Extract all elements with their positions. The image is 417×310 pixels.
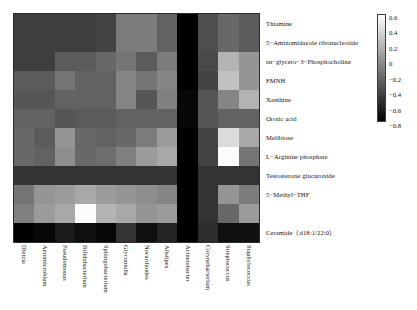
heatmap-cell	[75, 185, 95, 204]
heatmap-cell	[75, 52, 95, 71]
heatmap-cell	[136, 90, 156, 109]
column-label-axis: DietziaAeromicrobiumPseudomonasBifidobac…	[14, 244, 259, 308]
row-label: Xanthine	[266, 90, 374, 109]
heatmap-cell	[157, 223, 177, 242]
heatmap-cell	[14, 90, 34, 109]
heatmap-cell	[218, 33, 238, 52]
heatmap-cell	[116, 33, 136, 52]
heatmap-cell	[75, 109, 95, 128]
heatmap-cell	[14, 33, 34, 52]
heatmap-cell	[136, 71, 156, 90]
heatmap-cell	[75, 147, 95, 166]
heatmap-figure: Thiamine5−Aminomidazole ribonucleotidesn…	[0, 0, 417, 310]
heatmap-cell	[136, 128, 156, 147]
heatmap-cell	[55, 33, 75, 52]
heatmap-cell	[96, 185, 116, 204]
heatmap-cell	[177, 71, 197, 90]
heatmap-cell	[157, 33, 177, 52]
heatmap-cell	[239, 109, 259, 128]
heatmap-cell	[14, 204, 34, 223]
heatmap-cell	[218, 204, 238, 223]
heatmap-cell	[239, 185, 259, 204]
heatmap-cell	[157, 14, 177, 33]
heatmap-cell	[157, 52, 177, 71]
row-label: 5−Aminomidazole ribonucleotide	[266, 33, 374, 52]
heatmap-cell	[75, 166, 95, 185]
heatmap-cell	[198, 223, 218, 242]
column-label-slot: Alistipes	[157, 244, 177, 308]
heatmap-cell	[14, 223, 34, 242]
colorbar-tick-label: 0.6	[389, 14, 397, 22]
heatmap-cell	[239, 147, 259, 166]
colorbar-tick-label: −0.8	[389, 122, 401, 130]
heatmap-cell	[177, 204, 197, 223]
heatmap-cell	[198, 109, 218, 128]
heatmap-cell	[177, 185, 197, 204]
column-label: Staphylococcus	[245, 245, 252, 286]
heatmap-cell	[157, 166, 177, 185]
colorbar: 0.60.40.20−0.2−0.4−0.6−0.8	[377, 14, 415, 122]
heatmap-cell	[75, 33, 95, 52]
heatmap-matrix	[14, 14, 259, 242]
heatmap-cell	[14, 166, 34, 185]
heatmap-cell	[198, 166, 218, 185]
heatmap-cell	[34, 147, 54, 166]
heatmap-cell	[177, 33, 197, 52]
column-label-slot: Pseudomonas	[55, 244, 75, 308]
heatmap-cell	[55, 204, 75, 223]
column-label: Sphingobacterium	[102, 245, 109, 293]
heatmap-cell	[96, 147, 116, 166]
heatmap-cell	[136, 33, 156, 52]
heatmap-cell	[96, 90, 116, 109]
column-label-slot: Streptococcus	[218, 244, 238, 308]
heatmap-cell	[218, 147, 238, 166]
heatmap-cell	[198, 204, 218, 223]
colorbar-tick-label: 0.4	[389, 29, 397, 37]
heatmap-cell	[14, 71, 34, 90]
heatmap-cell	[198, 52, 218, 71]
heatmap-cell	[177, 52, 197, 71]
colorbar-tick-label: 0	[389, 60, 392, 68]
heatmap-cell	[239, 71, 259, 90]
column-label-slot: Staphylococcus	[239, 244, 259, 308]
row-label: FMNH	[266, 71, 374, 90]
column-label-slot: Dietzia	[14, 244, 34, 308]
heatmap-cell	[14, 14, 34, 33]
heatmap-cell	[14, 52, 34, 71]
heatmap-cell	[96, 223, 116, 242]
heatmap-cell	[177, 166, 197, 185]
row-label: Orotic acid	[266, 109, 374, 128]
heatmap-cell	[157, 71, 177, 90]
heatmap-cell	[116, 71, 136, 90]
column-label: Pseudomonas	[62, 245, 69, 281]
heatmap-cell	[14, 109, 34, 128]
heatmap-cell	[116, 185, 136, 204]
heatmap-cell	[34, 128, 54, 147]
column-label: Acinetobacter	[184, 245, 191, 282]
heatmap-cell	[55, 128, 75, 147]
heatmap-cell	[55, 71, 75, 90]
column-label-slot: Aeromicrobium	[34, 244, 54, 308]
heatmap-cell	[198, 128, 218, 147]
heatmap-cell	[55, 90, 75, 109]
heatmap-cell	[96, 14, 116, 33]
heatmap-cell	[136, 147, 156, 166]
heatmap-cell	[55, 52, 75, 71]
heatmap-cell	[116, 14, 136, 33]
heatmap-cell	[34, 109, 54, 128]
colorbar-gradient	[377, 14, 386, 122]
row-label: Thiamine	[266, 14, 374, 33]
heatmap-cell	[96, 71, 116, 90]
heatmap-cell	[96, 204, 116, 223]
heatmap-cell	[198, 185, 218, 204]
heatmap-cell	[14, 128, 34, 147]
heatmap-cell	[198, 71, 218, 90]
heatmap-cell	[136, 204, 156, 223]
row-label: 5−Methyl−THF	[266, 185, 374, 204]
heatmap-cell	[218, 14, 238, 33]
row-label-axis: Thiamine5−Aminomidazole ribonucleotidesn…	[266, 14, 374, 242]
heatmap-cell	[75, 90, 95, 109]
column-label-slot: Sphingobacterium	[96, 244, 116, 308]
heatmap-cell	[55, 147, 75, 166]
heatmap-cell	[116, 166, 136, 185]
